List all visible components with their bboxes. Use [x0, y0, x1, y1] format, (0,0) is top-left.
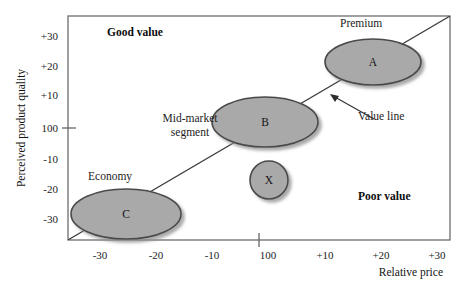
value-line-annotation-label: Value line	[358, 110, 404, 122]
mid-market-label-line1: Mid-market	[163, 112, 219, 124]
x-axis-title: Relative price	[379, 266, 443, 279]
x-tick-label-6: +30	[428, 249, 446, 261]
bubble-a[interactable]: A	[325, 39, 421, 85]
mid-market-label-line2: segment	[171, 126, 210, 139]
bubble-x-label: X	[265, 174, 274, 186]
premium-label: Premium	[340, 17, 382, 29]
poor-value-label: Poor value	[358, 190, 411, 202]
value-map-chart: C B X A Value line Good value Poor value…	[0, 0, 471, 287]
y-tick-label-3: 100	[42, 122, 59, 134]
y-tick-label-1: +20	[41, 60, 59, 72]
bubble-b-label: B	[261, 116, 269, 128]
y-tick-label-4: -10	[43, 153, 58, 165]
x-tick-label-3: 100	[260, 249, 277, 261]
x-tick-label-5: +20	[372, 249, 390, 261]
good-value-label: Good value	[107, 26, 163, 38]
x-tick-label-1: -20	[149, 249, 164, 261]
x-tick-label-4: +10	[316, 249, 334, 261]
bubble-c-label: C	[122, 208, 130, 220]
y-tick-label-5: -20	[43, 183, 58, 195]
bubble-a-label: A	[369, 56, 378, 68]
bubble-c[interactable]: C	[71, 189, 181, 239]
x-tick-label-2: -10	[205, 249, 220, 261]
y-tick-label-0: +30	[41, 30, 59, 42]
bubble-b[interactable]: B	[212, 97, 318, 147]
bubble-x[interactable]: X	[250, 161, 288, 199]
y-tick-label-6: -30	[43, 213, 58, 225]
y-axis-title: Perceived product quality	[15, 69, 28, 187]
x-tick-label-0: -30	[93, 249, 108, 261]
y-tick-label-2: +10	[41, 89, 59, 101]
economy-label: Economy	[88, 170, 132, 183]
chart-canvas: C B X A Value line Good value Poor value…	[0, 0, 471, 287]
